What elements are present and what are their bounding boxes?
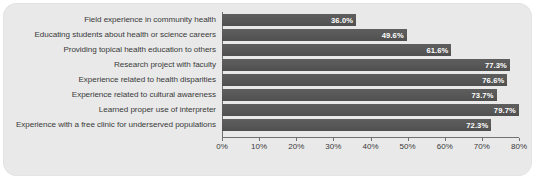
bar-value-label: 77.3% xyxy=(485,61,510,70)
category-label: Learned proper use of interpreter xyxy=(9,106,222,114)
chart-bar-row: Educating students about health or scien… xyxy=(9,28,526,43)
chart-bar: 61.6% xyxy=(222,44,451,56)
bar-value-label: 76.6% xyxy=(482,76,507,85)
category-label: Research project with faculty xyxy=(9,61,222,69)
x-axis-tick xyxy=(259,138,260,141)
chart-bar: 77.3% xyxy=(222,59,510,71)
chart-bar-row: Experience related to cultural awareness… xyxy=(9,88,526,103)
x-axis-tick-label: 70% xyxy=(474,142,490,151)
chart-bar-row: Learned proper use of interpreter79.7% xyxy=(9,103,526,118)
chart-bar-row: Providing topical health education to ot… xyxy=(9,43,526,58)
bar-track: 76.6% xyxy=(222,73,520,88)
x-axis-tick-label: 60% xyxy=(437,142,453,151)
x-axis-tick-label: 20% xyxy=(288,142,304,151)
category-label: Field experience in community health xyxy=(9,16,222,24)
bar-track: 61.6% xyxy=(222,43,520,58)
chart-bar: 73.7% xyxy=(222,89,497,101)
chart-screenshot: Field experience in community health36.0… xyxy=(0,0,535,179)
bar-value-label: 36.0% xyxy=(331,16,356,25)
x-axis-tick xyxy=(296,138,297,141)
x-axis-tick-label: 40% xyxy=(362,142,378,151)
chart-panel: Field experience in community health36.0… xyxy=(3,3,532,176)
bar-track: 36.0% xyxy=(222,13,520,28)
chart-bar-row: Experience with a free clinic for unders… xyxy=(9,118,526,133)
category-label: Experience with a free clinic for unders… xyxy=(9,121,222,129)
x-axis-tick xyxy=(222,138,223,141)
x-axis-tick-label: 30% xyxy=(325,142,341,151)
x-axis-tick xyxy=(519,138,520,141)
bar-value-label: 79.7% xyxy=(494,106,519,115)
x-axis-tick xyxy=(445,138,446,141)
x-axis-tick xyxy=(371,138,372,141)
chart-bar: 79.7% xyxy=(222,104,519,116)
bar-value-label: 49.6% xyxy=(382,31,407,40)
category-label: Providing topical health education to ot… xyxy=(9,46,222,54)
chart-bar-row: Research project with faculty77.3% xyxy=(9,58,526,73)
chart-bar-row: Field experience in community health36.0… xyxy=(9,13,526,28)
x-axis-tick-label: 50% xyxy=(400,142,416,151)
bar-track: 79.7% xyxy=(222,103,520,118)
bar-track: 72.3% xyxy=(222,118,520,133)
bar-value-label: 73.7% xyxy=(471,91,496,100)
bar-track: 77.3% xyxy=(222,58,520,73)
x-axis-tick-label: 0% xyxy=(216,142,228,151)
category-label: Experience related to health disparities xyxy=(9,76,222,84)
chart-inner: Field experience in community health36.0… xyxy=(9,8,526,171)
bar-track: 49.6% xyxy=(222,28,520,43)
category-label: Educating students about health or scien… xyxy=(9,31,222,39)
bar-value-label: 72.3% xyxy=(466,121,491,130)
x-axis-tick xyxy=(408,138,409,141)
bar-value-label: 61.6% xyxy=(426,46,451,55)
x-axis-tick-label: 80% xyxy=(511,142,527,151)
chart-bar: 36.0% xyxy=(222,14,356,26)
chart-bar: 72.3% xyxy=(222,119,491,131)
x-axis-tick-labels: 0%10%20%30%40%50%60%70%80% xyxy=(9,142,526,156)
chart-bar-row: Experience related to health disparities… xyxy=(9,73,526,88)
chart-bar: 76.6% xyxy=(222,74,507,86)
x-axis-tick xyxy=(482,138,483,141)
x-axis-tick-label: 10% xyxy=(251,142,267,151)
chart-bar: 49.6% xyxy=(222,29,407,41)
bar-track: 73.7% xyxy=(222,88,520,103)
category-label: Experience related to cultural awareness xyxy=(9,91,222,99)
plot-area: Field experience in community health36.0… xyxy=(9,8,526,136)
x-axis-tick xyxy=(333,138,334,141)
